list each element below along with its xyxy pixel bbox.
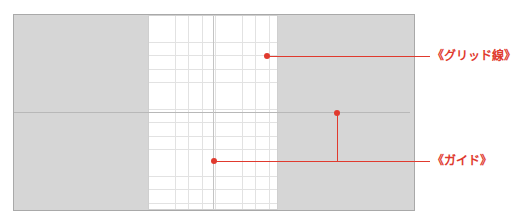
horizontal-guide[interactable] (14, 112, 410, 113)
guide-callout-line (214, 161, 430, 162)
vertical-guide[interactable] (213, 16, 214, 209)
guide-label: 《ガイド》 (432, 154, 492, 168)
guide-callout-connector (337, 113, 338, 161)
grid-callout-line (267, 56, 430, 57)
grid-line-label: 《グリッド線》 (432, 49, 516, 63)
